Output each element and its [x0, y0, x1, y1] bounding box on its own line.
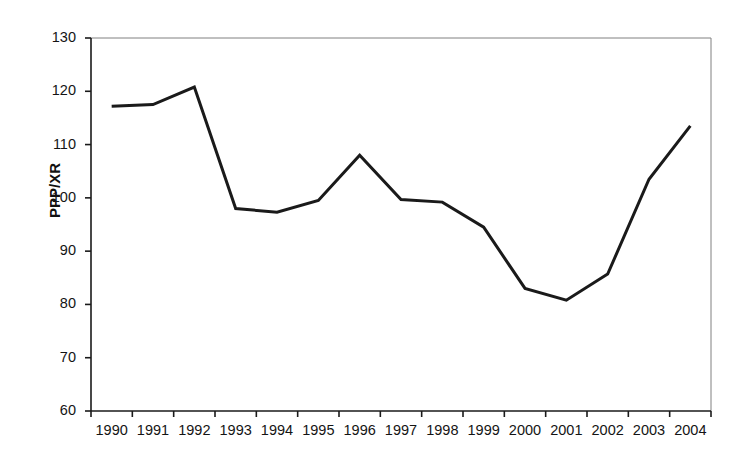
- plot-frame: [91, 38, 711, 411]
- plot-area: [0, 0, 743, 463]
- x-axis-ticks: [91, 411, 711, 417]
- data-series-line: [112, 87, 691, 300]
- chart-figure: PPP/XR 13012011010090807060 199019911992…: [0, 0, 743, 463]
- y-axis-ticks: [85, 38, 91, 411]
